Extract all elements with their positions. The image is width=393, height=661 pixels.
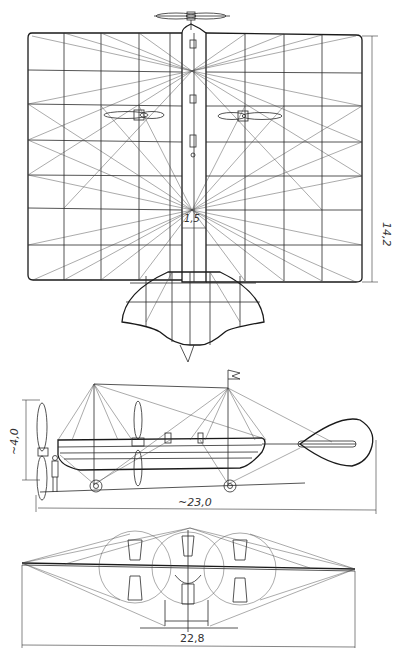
dim-label-length: ~23,0 [178,497,212,508]
right-propeller-icon [218,111,282,121]
dim-label-fuselage-width: 1,5 [184,214,200,224]
mid-propeller-icon [132,401,144,486]
dim-label-span-height: 14,2 [381,222,392,247]
left-propeller-icon [104,110,164,120]
plan-view [28,12,378,362]
side-view [22,370,376,514]
front-view [22,528,355,648]
dim-label-span: 22,8 [180,633,205,644]
tail-plane [122,272,264,362]
dim-label-height: ~4,0 [9,428,20,455]
tail-propeller-icon [154,12,230,30]
person-scale-figure [52,456,58,493]
front-propellers-icon [128,536,247,604]
nose-propeller-icon [37,403,48,500]
